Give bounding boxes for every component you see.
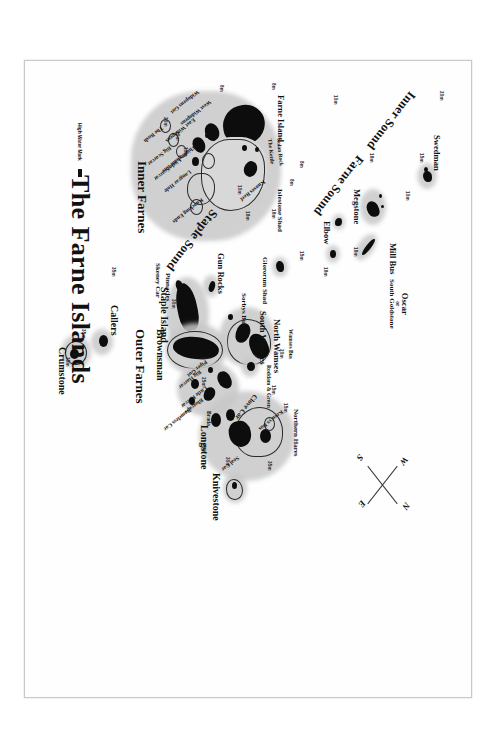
shape-megstone-c: [381, 205, 384, 208]
label-elbow: Elbow: [322, 221, 331, 244]
shape-megstone-b: [379, 194, 382, 198]
depth-sounding: 20m: [162, 117, 167, 127]
label-gun-rocks: Gun Rocks: [216, 253, 225, 294]
label-farne-island: Farne Island: [276, 95, 285, 142]
label-islestone-shad: Islestone Shad: [276, 189, 283, 232]
label-pinnacles: Pinnacles: [164, 273, 171, 301]
label-mill-bus: Mill Bus: [388, 243, 397, 274]
compass-south: S: [355, 452, 366, 462]
label-outer-farnes: Outer Farnes: [134, 329, 147, 404]
shape-brada: [211, 413, 221, 427]
depth-sounding: 35m: [110, 267, 115, 277]
depth-sounding: 8m: [270, 83, 275, 90]
label-sorbys-bus: Sorbys Bus: [240, 293, 247, 327]
label-brownsman: Brownsman: [155, 329, 165, 381]
label-brada: Brada: [205, 411, 211, 426]
depth-sounding: 8m: [288, 179, 293, 186]
map-frame: 20m 15m 10m 18m 18m 8m 10m 8m 8m 18m 15m…: [24, 60, 472, 698]
depth-sounding: 8m: [218, 85, 223, 92]
label-northern-hares: Northern Hares: [292, 409, 299, 457]
depth-sounding: 10m: [332, 95, 337, 105]
depth-sounding: 18m: [322, 267, 327, 277]
label-roddam-green: Roddam & Green: [265, 365, 271, 408]
shape-oscar: [330, 250, 336, 258]
label-longstone: Longstone: [199, 425, 209, 469]
label-outer-farnes-line1: Outer Farnes: [134, 329, 147, 404]
map-canvas: 20m 15m 10m 18m 18m 8m 10m 8m 8m 18m 15m…: [25, 61, 471, 697]
shape-swedman-b: [424, 167, 428, 172]
label-glororum-shad: Glororum Shad: [261, 257, 268, 304]
compass-rose: N W S E: [353, 455, 413, 515]
shape-knivestone-b: [232, 482, 237, 489]
shape-solan-rock: [255, 147, 259, 152]
label-oscar-alt: South Goldstone: [388, 279, 395, 329]
shape-roddam-green: [247, 362, 255, 371]
label-megstone: Megstone: [352, 189, 361, 224]
label-roddam-green-text: Roddam & Green: [265, 365, 271, 408]
shape-whittingham-bus: [202, 153, 215, 169]
shape-glororum: [276, 261, 284, 272]
depth-sounding: 10m: [236, 185, 241, 195]
label-knivestone: Knivestone: [211, 473, 221, 521]
legend-swatch-high-water-mark: [78, 169, 82, 177]
label-inner-farnes: Inner Farnes: [136, 161, 149, 233]
depth-sounding: 18m: [270, 209, 275, 219]
label-skeney-car: Skeney Car: [154, 263, 161, 298]
label-inner-sound: Inner Sound: [364, 89, 417, 152]
shape-sorbys-bus: [228, 314, 233, 320]
label-wamses-bus: Wamses Bus: [287, 329, 293, 359]
legend-label: High Water Mark: [76, 123, 81, 161]
depth-sounding: 8m: [298, 161, 303, 168]
map-title: The Farne Islands: [66, 175, 93, 384]
shape-widopens-gut: [205, 133, 209, 138]
label-farne-island-text: Farne Island: [276, 95, 285, 142]
depth-sounding: 10m: [404, 191, 409, 201]
shape-the-kettle: [242, 145, 247, 151]
label-swedman: Swedman: [432, 135, 441, 171]
label-nameless-car: Nameless Car: [162, 407, 192, 432]
label-oscar-group: Oscar or South Goldstone: [388, 279, 409, 329]
label-callers: Callers: [109, 305, 119, 336]
compass-north: N: [400, 501, 412, 512]
depth-sounding: 18m: [368, 153, 373, 163]
compass-west: W: [398, 455, 411, 467]
label-south-wamses: South Wamses: [258, 311, 267, 365]
label-inner-farnes-line1: Inner Farnes: [136, 161, 149, 233]
shape-swedman: [423, 171, 432, 182]
label-north-wamses: North Wamses: [272, 319, 281, 373]
depth-sounding: 20m: [438, 91, 443, 101]
shape-piper-gut: [208, 367, 213, 373]
depth-sounding: 18m: [352, 247, 357, 257]
shape-callers: [99, 335, 108, 347]
compass-east: E: [356, 499, 368, 510]
label-oscar: Oscar: [400, 279, 409, 329]
depth-sounding: 35m: [266, 461, 271, 471]
depth-sounding: 15m: [298, 251, 303, 261]
depth-sounding: 18m: [244, 211, 249, 221]
shape-whittingham-bus-rock: [192, 157, 199, 166]
depth-sounding: 15m: [418, 153, 423, 163]
